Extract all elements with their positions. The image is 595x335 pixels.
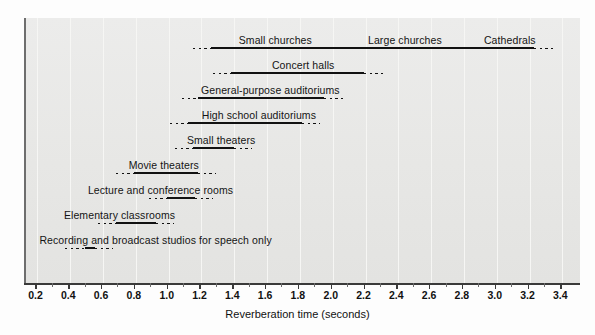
x-axis-tick-label: 1.4 xyxy=(225,289,240,301)
range-bar xyxy=(65,245,113,251)
bar-row: Recording and broadcast studios for spee… xyxy=(26,230,580,255)
range-bar-dotted-left xyxy=(149,198,167,200)
x-axis-minor-tick xyxy=(446,283,447,287)
range-bar xyxy=(182,95,343,101)
x-axis-minor-tick xyxy=(183,283,184,287)
bar-row: Small churchesLarge churchesCathedrals xyxy=(26,30,580,55)
range-bar-dotted-left xyxy=(175,148,193,150)
x-axis-minor-tick xyxy=(478,283,479,287)
bar-row: Movie theaters xyxy=(26,155,580,180)
range-bar-solid xyxy=(198,97,324,99)
bar-row: Small theaters xyxy=(26,130,580,155)
reverberation-time-chart: Small churchesLarge churchesCathedralsCo… xyxy=(0,0,595,335)
x-axis-tick-label: 3.0 xyxy=(487,289,502,301)
x-axis-minor-tick xyxy=(314,283,315,287)
range-bar-dotted-left xyxy=(213,73,231,75)
x-axis-minor-tick xyxy=(413,283,414,287)
range-bar-dotted-right xyxy=(156,223,174,225)
range-bar xyxy=(170,120,319,126)
range-bar-solid xyxy=(231,72,364,74)
x-axis-tick-label: 0.8 xyxy=(127,289,142,301)
x-axis-tick-label: 1.8 xyxy=(291,289,306,301)
x-axis-tick-label: 1.0 xyxy=(159,289,174,301)
bar-row: Lecture and conference rooms xyxy=(26,180,580,205)
x-axis-minor-tick xyxy=(281,283,282,287)
range-bar xyxy=(149,195,213,201)
x-axis-tick-label: 3.2 xyxy=(520,289,535,301)
range-bar-dotted-left xyxy=(193,48,211,50)
x-axis-minor-tick xyxy=(52,283,53,287)
x-axis-tick-label: 1.6 xyxy=(258,289,273,301)
range-bar-solid xyxy=(116,222,155,224)
x-axis-minor-tick xyxy=(380,283,381,287)
range-bar xyxy=(213,70,384,76)
range-bar-dotted-right xyxy=(364,73,384,75)
bar-row: Elementary classrooms xyxy=(26,205,580,230)
range-bar-dotted-left xyxy=(170,123,188,125)
range-bar-solid xyxy=(211,47,534,49)
x-axis-tick-label: 2.4 xyxy=(389,289,404,301)
range-bar-solid xyxy=(85,247,95,249)
x-axis-tick-label: 2.0 xyxy=(323,289,338,301)
x-axis-minor-tick xyxy=(216,283,217,287)
x-axis-tick-label: 0.2 xyxy=(28,289,43,301)
x-axis-minor-tick xyxy=(249,283,250,287)
x-axis-line xyxy=(24,283,580,285)
x-axis-tick-label: 0.6 xyxy=(94,289,109,301)
x-axis-tick-label: 2.2 xyxy=(356,289,371,301)
range-bar-dotted-right xyxy=(302,123,320,125)
plot-panel: Small churchesLarge churchesCathedralsCo… xyxy=(24,18,580,283)
x-axis-minor-tick xyxy=(511,283,512,287)
x-axis-minor-tick xyxy=(347,283,348,287)
range-bar-dotted-right xyxy=(198,173,216,175)
range-bar-solid xyxy=(134,172,198,174)
range-bar-dotted-right xyxy=(234,148,252,150)
range-bar-solid xyxy=(188,122,301,124)
range-bar-dotted-right xyxy=(95,248,113,250)
range-bar xyxy=(193,45,555,51)
x-axis-label: Reverberation time (seconds) xyxy=(0,308,595,320)
range-bar-dotted-left xyxy=(116,173,134,175)
range-bar-dotted-right xyxy=(534,48,555,50)
x-axis-tick-label: 2.8 xyxy=(455,289,470,301)
x-axis-tick-label: 0.4 xyxy=(61,289,76,301)
range-bar-dotted-right xyxy=(324,98,342,100)
range-bar-dotted-left xyxy=(182,98,198,100)
range-bar xyxy=(116,170,216,176)
range-bar xyxy=(175,145,252,151)
x-axis-tick-label: 2.6 xyxy=(422,289,437,301)
range-bar-solid xyxy=(193,147,234,149)
range-bar-dotted-right xyxy=(195,198,213,200)
x-axis-minor-tick xyxy=(85,283,86,287)
bar-row: High school auditoriums xyxy=(26,105,580,130)
bar-row: General-purpose auditoriums xyxy=(26,80,580,105)
range-bar-dotted-left xyxy=(98,223,116,225)
x-axis-minor-tick xyxy=(544,283,545,287)
x-axis-minor-tick xyxy=(117,283,118,287)
range-bar-solid xyxy=(167,197,195,199)
x-axis-tick-label: 3.4 xyxy=(553,289,568,301)
range-bar-dotted-left xyxy=(65,248,85,250)
range-bar xyxy=(98,220,173,226)
bar-row: Concert halls xyxy=(26,55,580,80)
x-axis-minor-tick xyxy=(150,283,151,287)
x-axis-tick-label: 1.2 xyxy=(192,289,207,301)
